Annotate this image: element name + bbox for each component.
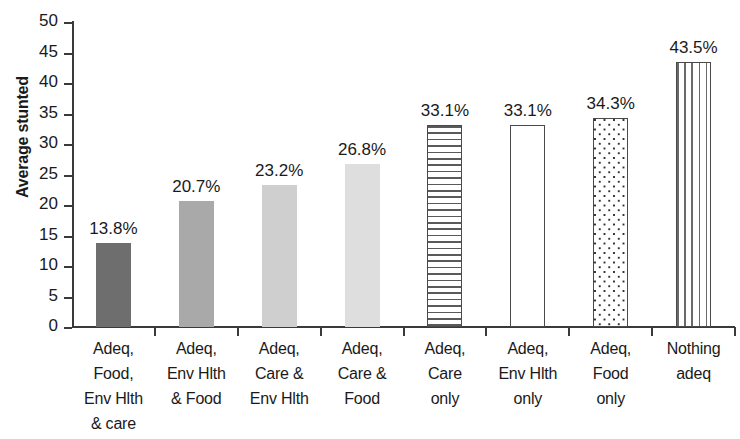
y-axis-tick-label: 35 <box>18 103 58 123</box>
x-axis-category-label: Adeq,Food,Env Hlth& care <box>68 336 159 436</box>
bar-chart: Average stunted 50454035302520151050 13.… <box>0 0 740 439</box>
y-axis-tick-label: 25 <box>18 164 58 184</box>
bar[interactable] <box>676 62 711 327</box>
y-axis-tick: 0 <box>64 327 72 329</box>
bar-value-label: 43.5% <box>654 38 734 57</box>
y-axis-tick: 20 <box>64 205 72 207</box>
plot-area: 50454035302520151050 13.8%20.7%23.2%26.8… <box>72 22 735 327</box>
category-label-line: Nothing <box>648 336 739 361</box>
category-label-line: Env Hlth <box>234 386 325 411</box>
category-label-line: & Food <box>151 386 242 411</box>
x-axis-tick <box>320 327 322 336</box>
x-axis-category-label: Adeq,Env Hlth& Food <box>151 336 242 411</box>
y-axis-tick: 10 <box>64 266 72 268</box>
bar[interactable] <box>510 125 545 327</box>
bar-value-label: 13.8% <box>73 219 153 238</box>
x-axis-category-label: Adeq,Careonly <box>400 336 491 411</box>
y-axis-tick: 15 <box>64 236 72 238</box>
x-axis-tick <box>403 327 405 336</box>
category-label-line: Adeq, <box>234 336 325 361</box>
category-label-line: Food <box>317 386 408 411</box>
x-axis-tick <box>734 327 736 336</box>
category-label-line: Env Hlth <box>482 361 573 386</box>
y-axis-tick-label: 0 <box>18 316 58 336</box>
category-label-line: & care <box>68 411 159 436</box>
category-label-line: only <box>565 386 656 411</box>
bar-value-label: 33.1% <box>488 101 568 120</box>
bar-value-label: 20.7% <box>156 177 236 196</box>
bar[interactable] <box>262 185 297 327</box>
y-axis-tick: 30 <box>64 144 72 146</box>
category-label-line: adeq <box>648 361 739 386</box>
y-axis-tick: 5 <box>64 297 72 299</box>
x-axis-tick <box>154 327 156 336</box>
y-axis-tick-label: 30 <box>18 133 58 153</box>
category-label-line: Adeq, <box>151 336 242 361</box>
category-label-line: Adeq, <box>317 336 408 361</box>
category-label-line: Adeq, <box>68 336 159 361</box>
bar-value-label: 26.8% <box>322 140 402 159</box>
y-axis-tick-label: 20 <box>18 194 58 214</box>
category-label-line: only <box>482 386 573 411</box>
y-axis-tick: 25 <box>64 175 72 177</box>
y-axis-tick-label: 50 <box>18 11 58 31</box>
category-label-line: Adeq, <box>565 336 656 361</box>
category-label-line: Care <box>400 361 491 386</box>
bar-value-label: 33.1% <box>405 101 485 120</box>
y-axis-tick: 45 <box>64 53 72 55</box>
x-axis-tick <box>651 327 653 336</box>
x-axis-tick <box>568 327 570 336</box>
bar[interactable] <box>427 125 462 327</box>
category-label-line: Food <box>565 361 656 386</box>
bar-value-label: 23.2% <box>239 161 319 180</box>
y-axis-tick: 35 <box>64 114 72 116</box>
category-label-line: Env Hlth <box>151 361 242 386</box>
y-axis-tick-label: 40 <box>18 72 58 92</box>
category-label-line: Adeq, <box>482 336 573 361</box>
bar[interactable] <box>179 201 214 327</box>
bar[interactable] <box>593 118 628 327</box>
category-label-line: Care & <box>234 361 325 386</box>
bar-value-label: 34.3% <box>571 94 651 113</box>
x-axis-category-label: Adeq,Env Hlthonly <box>482 336 573 411</box>
y-axis-tick-label: 15 <box>18 225 58 245</box>
category-label-line: only <box>400 386 491 411</box>
y-axis-tick-label: 5 <box>18 286 58 306</box>
bar[interactable] <box>345 164 380 327</box>
x-axis-tick <box>485 327 487 336</box>
x-axis-category-label: Adeq,Care &Food <box>317 336 408 411</box>
y-axis-tick: 40 <box>64 83 72 85</box>
x-axis-category-label: Adeq,Foodonly <box>565 336 656 411</box>
category-label-line: Env Hlth <box>68 386 159 411</box>
x-axis-category-label: Nothingadeq <box>648 336 739 386</box>
x-axis-category-label: Adeq,Care &Env Hlth <box>234 336 325 411</box>
y-axis-tick-label: 10 <box>18 255 58 275</box>
bar[interactable] <box>96 243 131 327</box>
category-label-line: Food, <box>68 361 159 386</box>
y-axis-tick: 50 <box>64 22 72 24</box>
category-label-line: Care & <box>317 361 408 386</box>
category-label-line: Adeq, <box>400 336 491 361</box>
y-axis-tick-label: 45 <box>18 42 58 62</box>
x-axis-tick <box>237 327 239 336</box>
